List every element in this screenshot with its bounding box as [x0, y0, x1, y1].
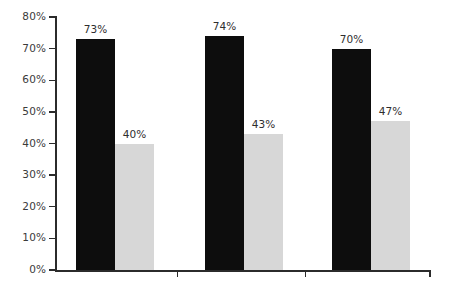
y-axis-tick-label: 50% — [0, 105, 46, 117]
bar-1-series-1 — [76, 39, 115, 270]
y-axis-tick — [49, 16, 56, 17]
bar-value-label: 43% — [234, 118, 293, 130]
y-axis-tick-label: 30% — [0, 168, 46, 180]
bar-3-series-2 — [371, 121, 410, 270]
y-axis-tick-label: 70% — [0, 42, 46, 54]
x-axis-tick — [305, 270, 306, 277]
y-axis-tick — [49, 206, 56, 207]
y-axis-tick-label: 80% — [0, 10, 46, 22]
y-axis-tick-label: 40% — [0, 137, 46, 149]
y-axis-tick — [49, 269, 56, 270]
bar-value-label: 73% — [66, 23, 125, 35]
y-axis-tick — [49, 238, 56, 239]
bar-value-label: 47% — [361, 105, 420, 117]
y-axis-tick-label: 60% — [0, 73, 46, 85]
bar-chart: 80%70%60%50%40%30%20%10%0% 73%40%74%43%7… — [0, 0, 450, 282]
y-axis-tick — [49, 143, 56, 144]
bar-1-series-2 — [115, 144, 154, 271]
y-axis-tick — [49, 111, 56, 112]
y-axis-tick-label: 20% — [0, 200, 46, 212]
bar-2-series-1 — [205, 36, 244, 270]
bar-value-label: 74% — [195, 20, 254, 32]
x-axis-tick — [177, 270, 178, 277]
y-axis-tick — [49, 80, 56, 81]
x-axis-end-tick — [429, 270, 431, 277]
y-axis-tick — [49, 48, 56, 49]
bar-3-series-1 — [332, 49, 371, 270]
y-axis-tick-label: 10% — [0, 231, 46, 243]
bar-2-series-2 — [244, 134, 283, 270]
y-axis-tick — [49, 174, 56, 175]
bar-value-label: 40% — [105, 128, 164, 140]
x-axis-line — [55, 270, 430, 272]
y-axis-tick-label: 0% — [0, 263, 46, 275]
bar-value-label: 70% — [322, 33, 381, 45]
